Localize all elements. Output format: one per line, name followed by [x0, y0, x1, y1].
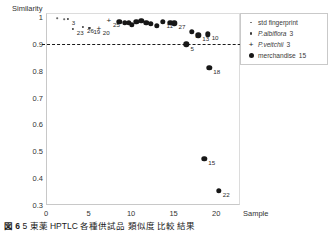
legend-item[interactable]: P.albiflora 3: [244, 28, 325, 39]
y-axis-tick-labels: 0.30.40.50.60.70.80.91: [0, 0, 43, 231]
data-point: [96, 26, 102, 32]
legend-item-label: P.veitchii: [258, 41, 284, 48]
data-point: [63, 18, 65, 20]
data-point-label: 3: [72, 19, 75, 26]
y-tick-label: 1: [39, 13, 43, 22]
small-dot-icon: [244, 22, 258, 24]
y-tick-label: 0.4: [33, 174, 43, 183]
caption-text: 5 東薬 HPTLC 各種供試品 類似度 比較 結果: [22, 221, 195, 231]
legend-item-count: 3: [287, 41, 291, 48]
data-point-label: 27: [178, 23, 185, 30]
figure-container: Similarity 0.30.40.50.60.70.80.91 051015…: [0, 0, 330, 231]
legend-item-label: std fingerprint: [258, 19, 298, 26]
data-point: [57, 18, 59, 20]
data-point-label: 20: [103, 28, 110, 35]
legend-item-label: merchandise: [258, 52, 296, 59]
legend-item-label: P.albiflora: [258, 30, 286, 37]
x-tick-label: 10: [127, 209, 135, 218]
figure-number: 図 6: [4, 221, 20, 231]
legend-item-count: 3: [289, 30, 293, 37]
y-tick-label: 0.7: [33, 93, 43, 102]
plot-area: [46, 13, 240, 205]
data-point-label: 5: [190, 44, 193, 51]
legend-item[interactable]: + P.veitchii 3: [244, 39, 325, 50]
y-tick-label: 0.5: [33, 147, 43, 156]
figure-caption: 図 6 5 東薬 HPTLC 各種供試品 類似度 比較 結果: [4, 219, 330, 231]
legend-item[interactable]: merchandise 15: [244, 50, 325, 61]
x-tick-label: 5: [86, 209, 90, 218]
y-tick-label: 0.3: [33, 201, 43, 210]
legend-item-count: 15: [299, 52, 306, 59]
data-point-label: 15: [208, 159, 215, 166]
plus-icon: +: [244, 41, 258, 49]
y-tick-label: 0.8: [33, 66, 43, 75]
x-axis-title: Sample: [243, 209, 268, 218]
x-tick-label: 0: [44, 209, 48, 218]
legend: std fingerprint P.albiflora 3 + P.veitch…: [240, 13, 328, 65]
data-point-label: 18: [213, 67, 220, 74]
legend-item[interactable]: std fingerprint: [244, 17, 325, 28]
x-tick-label: 15: [169, 209, 177, 218]
data-point-label: 22: [223, 191, 230, 198]
data-point-label: 23: [77, 28, 84, 35]
data-point-label: 10: [212, 34, 219, 41]
y-tick-label: 0.6: [33, 120, 43, 129]
filled-circle-icon: [244, 53, 258, 58]
dot-icon: [244, 32, 258, 35]
x-tick-label: 20: [212, 209, 220, 218]
data-point: [106, 18, 112, 24]
